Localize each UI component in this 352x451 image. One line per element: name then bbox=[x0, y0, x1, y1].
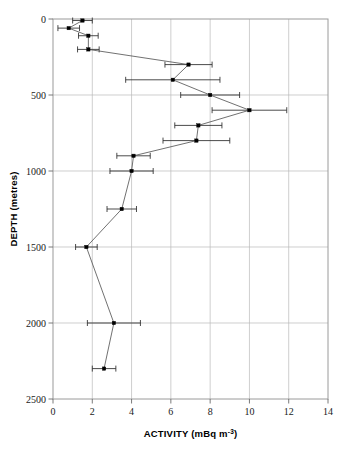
x-tick-label: 14 bbox=[323, 406, 333, 417]
y-tick-label: 2500 bbox=[26, 394, 46, 405]
data-point-marker bbox=[208, 93, 211, 96]
data-point-marker bbox=[85, 245, 88, 248]
x-tick-label: 0 bbox=[51, 406, 56, 417]
y-tick-label: 1000 bbox=[26, 166, 46, 177]
y-tick-label: 500 bbox=[31, 90, 46, 101]
data-markers bbox=[67, 19, 251, 370]
axis-ticks bbox=[49, 19, 329, 404]
data-point-marker bbox=[132, 154, 135, 157]
data-point-marker bbox=[187, 63, 190, 66]
y-tick-label: 0 bbox=[41, 14, 46, 25]
data-point-marker bbox=[248, 109, 251, 112]
data-point-marker bbox=[112, 321, 115, 324]
data-point-marker bbox=[195, 139, 198, 142]
y-tick-label: 1500 bbox=[26, 242, 46, 253]
data-point-marker bbox=[67, 26, 70, 29]
x-tick-label: 8 bbox=[208, 406, 213, 417]
chart-canvas: 0246810121405001000150020002500 ACTIVITY… bbox=[0, 0, 352, 451]
x-tick-label: 2 bbox=[90, 406, 95, 417]
data-point-marker bbox=[81, 19, 84, 22]
grid-lines bbox=[53, 19, 328, 399]
data-point-marker bbox=[130, 169, 133, 172]
x-tick-label: 10 bbox=[244, 406, 254, 417]
y-tick-label: 2000 bbox=[26, 318, 46, 329]
x-axis-title: ACTIVITY (mBq m-3) bbox=[144, 428, 238, 439]
x-tick-label: 4 bbox=[129, 406, 134, 417]
data-point-marker bbox=[87, 48, 90, 51]
y-axis-title: DEPTH (metres) bbox=[8, 171, 19, 246]
x-tick-label: 6 bbox=[168, 406, 173, 417]
data-point-marker bbox=[197, 124, 200, 127]
data-line bbox=[69, 21, 250, 369]
plot-border bbox=[53, 19, 328, 399]
activity-depth-profile-chart: 0246810121405001000150020002500 ACTIVITY… bbox=[0, 0, 352, 451]
data-point-marker bbox=[87, 34, 90, 37]
profile-line bbox=[69, 21, 250, 369]
plot-frame bbox=[53, 19, 328, 399]
x-tick-label: 12 bbox=[284, 406, 294, 417]
data-point-marker bbox=[171, 78, 174, 81]
data-point-marker bbox=[102, 367, 105, 370]
data-point-marker bbox=[120, 207, 123, 210]
tick-labels: 0246810121405001000150020002500 bbox=[26, 14, 333, 417]
